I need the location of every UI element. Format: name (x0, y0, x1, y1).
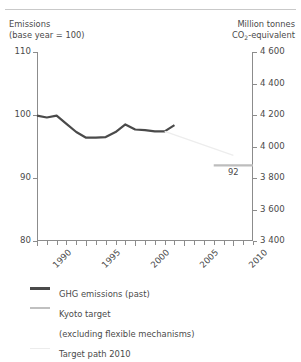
legend-label: Kyoto target (59, 309, 111, 319)
y-tick-right (253, 210, 257, 211)
legend-label: Target path 2010 (59, 349, 131, 359)
x-tick-minor (106, 241, 107, 245)
y-tick-label-left: 100 (15, 110, 31, 119)
legend-label: (excluding flexible mechanisms) (59, 329, 194, 339)
co2-subscript: 2 (244, 34, 248, 41)
series-layer (37, 52, 253, 241)
x-tick-minor (214, 241, 215, 245)
y-tick-right (253, 178, 257, 179)
x-tick-minor (194, 241, 195, 245)
left-axis-caption-line1: Emissions (9, 19, 50, 29)
x-tick-minor (253, 241, 254, 245)
y-tick-label-left: 110 (15, 47, 31, 56)
x-tick-minor (125, 241, 126, 245)
x-tick-minor (76, 241, 77, 245)
y-tick-right (253, 84, 257, 85)
y-tick-label-right: 3 400 (260, 236, 285, 245)
legend-swatch-icon (30, 307, 50, 309)
y-tick-right (253, 52, 257, 53)
x-tick-major (233, 241, 234, 246)
right-axis-caption: Million tonnes CO2-equivalent (232, 19, 295, 41)
y-tick-label-left: 80 (20, 236, 31, 245)
legend-swatch-icon (30, 287, 50, 290)
x-tick-major (184, 241, 185, 246)
legend-item[interactable]: (excluding flexible mechanisms) (30, 322, 290, 341)
right-axis-caption-unit: CO2-equivalent (232, 30, 295, 40)
x-tick-minor (145, 241, 146, 245)
x-tick-minor (204, 241, 205, 245)
y-tick-label-right: 4 600 (260, 47, 285, 56)
plot-area: 8090100110 3 4003 6003 8004 0004 2004 40… (37, 52, 253, 241)
header-divider (5, 9, 296, 10)
x-tick-label: 2010 (248, 248, 270, 270)
x-tick-minor (174, 241, 175, 245)
x-tick-minor (224, 241, 225, 245)
x-tick-label: 2005 (199, 248, 221, 270)
x-tick-label: 2000 (150, 248, 172, 270)
x-tick-major (86, 241, 87, 246)
series-line (37, 116, 174, 138)
y-tick-label-right: 3 800 (260, 173, 285, 182)
legend-item[interactable]: Kyoto target (30, 302, 290, 321)
x-tick-minor (155, 241, 156, 245)
x-tick-minor (116, 241, 117, 245)
x-tick-minor (165, 241, 166, 245)
x-tick-label: 1990 (51, 248, 73, 270)
y-tick-label-left: 90 (20, 173, 31, 182)
y-tick-label-right: 4 000 (260, 142, 285, 151)
chart-legend: GHG emissions (past)Kyoto target(excludi… (30, 282, 290, 362)
y-tick-label-right: 4 200 (260, 110, 285, 119)
legend-label: GHG emissions (past) (59, 289, 150, 299)
legend-item[interactable]: Target path 2010 (30, 342, 290, 361)
kyoto-target-value-label: 92 (221, 168, 245, 177)
series-line (165, 131, 234, 155)
left-axis-caption-line2: (base year = 100) (9, 30, 84, 40)
equivalent-text: -equivalent (248, 30, 295, 40)
x-tick-minor (47, 241, 48, 245)
y-tick-right (253, 147, 257, 148)
y-tick-label-right: 4 400 (260, 79, 285, 88)
x-tick-minor (66, 241, 67, 245)
legend-item[interactable]: GHG emissions (past) (30, 282, 290, 301)
x-tick-major (135, 241, 136, 246)
left-axis-caption: Emissions (base year = 100) (9, 19, 84, 40)
x-tick-minor (96, 241, 97, 245)
co2-text: CO (232, 30, 244, 40)
legend-swatch-icon (30, 348, 50, 349)
x-tick-major (37, 241, 38, 246)
x-tick-label: 1995 (100, 248, 122, 270)
y-tick-label-right: 3 600 (260, 205, 285, 214)
x-tick-minor (57, 241, 58, 245)
y-tick-right (253, 115, 257, 116)
right-axis-caption-line1: Million tonnes (237, 19, 295, 29)
x-tick-minor (243, 241, 244, 245)
